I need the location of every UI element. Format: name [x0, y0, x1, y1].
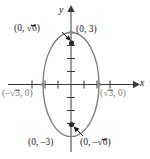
radical-sqrt6-bottom: √6	[97, 138, 107, 148]
label-focus-top: (0, √6)	[14, 24, 40, 34]
radical-sqrt3-right: √3	[103, 89, 113, 99]
x-axis-arrowhead	[133, 81, 140, 88]
focus-bottom-dot	[69, 122, 74, 127]
radical-bar	[108, 90, 113, 91]
y-axis-arrowhead	[67, 5, 74, 12]
covertex-left-dot	[41, 82, 45, 86]
focus-top-dot	[69, 40, 74, 45]
radical-bar	[15, 90, 20, 91]
vertex-top-dot	[69, 30, 73, 34]
x-axis-label: x	[140, 78, 144, 88]
label-vertex-top: (0, 3)	[76, 25, 97, 35]
radical-bar	[31, 25, 36, 26]
covertex-right-dot	[97, 82, 101, 86]
label-focus-bottom: (0, –√6)	[80, 138, 111, 148]
radical-sqrt3-left: √3	[10, 89, 20, 99]
radical-sqrt6-top: √6	[27, 24, 37, 34]
label-vertex-bottom: (0, –3)	[28, 138, 53, 148]
label-covertex-right: (√3, 0)	[100, 89, 126, 99]
y-axis-label: y	[59, 5, 63, 15]
radical-bar	[102, 139, 107, 140]
ellipse-graph-figure: y x (0, √6) (0, 3) (–√3, 0) (√3, 0) (0, …	[0, 0, 150, 159]
label-covertex-left: (–√3, 0)	[2, 89, 33, 99]
